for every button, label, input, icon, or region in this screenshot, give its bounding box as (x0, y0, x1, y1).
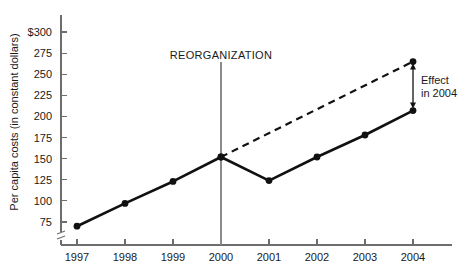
projected-trend-line (221, 62, 413, 157)
x-tick-label: 1999 (161, 251, 185, 263)
y-tick-label: 275 (34, 47, 52, 59)
y-tick-label: 125 (34, 174, 52, 186)
y-tick-label: 150 (34, 153, 52, 165)
data-point-marker (122, 200, 129, 207)
effect-arrow-head-down (410, 103, 416, 109)
data-point-marker (170, 178, 177, 185)
line-chart: $300275250225200175150125100751997199819… (0, 0, 476, 278)
y-tick-label: $300 (28, 26, 52, 38)
x-tick-label: 2004 (401, 251, 425, 263)
x-tick-label: 2002 (305, 251, 329, 263)
x-tick-label: 2000 (209, 251, 233, 263)
x-tick-label: 2003 (353, 251, 377, 263)
data-point-marker (74, 223, 81, 230)
data-point-marker (362, 132, 369, 139)
chart-container: $300275250225200175150125100751997199819… (0, 0, 476, 278)
x-tick-label: 2001 (257, 251, 281, 263)
data-point-marker (218, 154, 225, 161)
y-tick-label: 75 (40, 216, 52, 228)
data-point-marker (266, 177, 273, 184)
effect-label-line2: in 2004 (421, 87, 457, 99)
y-axis-break-icon (57, 236, 65, 239)
y-tick-label: 175 (34, 132, 52, 144)
y-axis-title: Per capita costs (in constant dollars) (8, 33, 20, 210)
x-tick-label: 1998 (113, 251, 137, 263)
y-tick-label: 225 (34, 89, 52, 101)
y-tick-label: 200 (34, 110, 52, 122)
y-tick-label: 250 (34, 68, 52, 80)
effect-label-line1: Effect (421, 74, 449, 86)
actual-costs-line (77, 111, 413, 227)
y-tick-label: 100 (34, 195, 52, 207)
reorganization-label: REORGANIZATION (170, 49, 272, 61)
data-point-marker (314, 154, 321, 161)
x-tick-label: 1997 (65, 251, 89, 263)
effect-arrow-head-up (410, 64, 416, 70)
